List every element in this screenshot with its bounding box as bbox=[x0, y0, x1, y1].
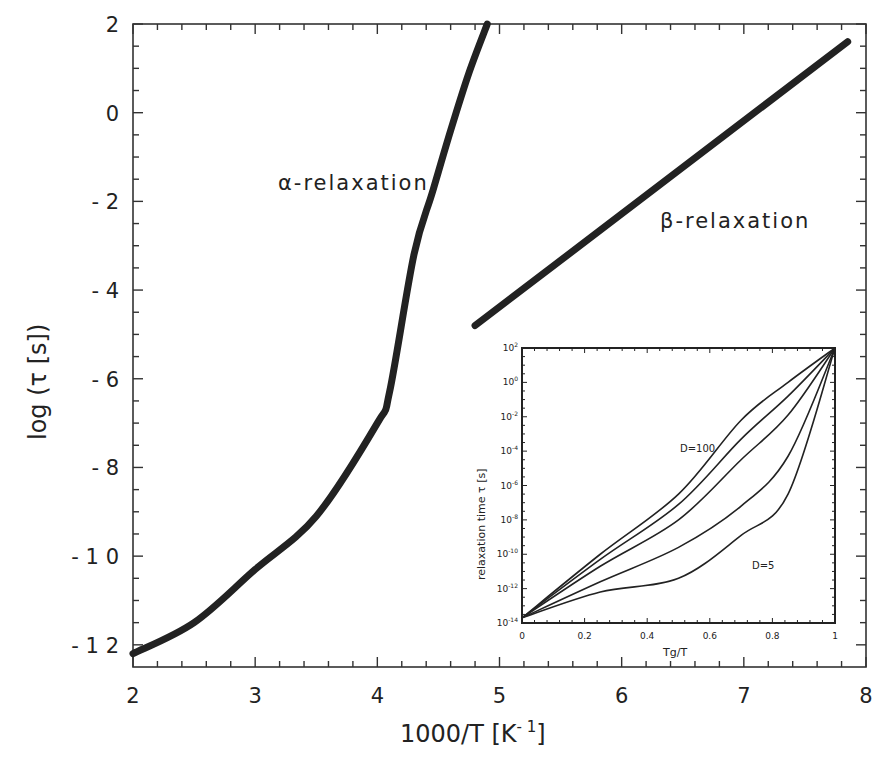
inset-y-tick-label: 10-14 bbox=[497, 616, 518, 628]
inset-d5-label: D=5 bbox=[752, 560, 774, 571]
alpha-relaxation-curve bbox=[133, 24, 487, 654]
x-tick-label: 7 bbox=[737, 684, 750, 708]
y-tick-label: - 8 bbox=[91, 456, 119, 480]
x-tick-label: 5 bbox=[493, 684, 506, 708]
inset-y-tick-label: 10-12 bbox=[497, 582, 518, 594]
y-tick-label: - 6 bbox=[91, 368, 119, 392]
inset-x-tick-label: 1 bbox=[832, 631, 838, 641]
y-tick-label: 2 bbox=[106, 13, 119, 37]
y-tick-label: - 1 2 bbox=[71, 634, 119, 658]
inset-y-axis-label: relaxation time τ [s] bbox=[475, 469, 488, 580]
inset-y-tick-label: 102 bbox=[503, 341, 518, 353]
inset-x-tick-label: 0.6 bbox=[703, 631, 718, 641]
inset-y-tick-label: 10-6 bbox=[501, 479, 519, 491]
inset-chart: 00.20.40.60.8110210010-210-410-610-810-1… bbox=[475, 341, 838, 659]
beta-relaxation-curve bbox=[475, 42, 848, 326]
y-tick-label: - 2 bbox=[91, 190, 119, 214]
x-tick-label: 2 bbox=[126, 684, 139, 708]
inset-x-tick-label: 0 bbox=[519, 631, 525, 641]
x-tick-label: 4 bbox=[371, 684, 384, 708]
inset-x-axis-label: Tg/T bbox=[662, 646, 687, 659]
y-tick-label: - 4 bbox=[91, 279, 119, 303]
alpha-relaxation-label: α-relaxation bbox=[278, 171, 429, 195]
x-axis-label: 1000/T [K- 1] bbox=[400, 718, 546, 748]
inset-y-tick-label: 10-4 bbox=[501, 444, 519, 456]
inset-x-tick-label: 0.2 bbox=[577, 631, 591, 641]
inset-y-tick-label: 10-2 bbox=[501, 410, 519, 422]
y-tick-label: 0 bbox=[106, 102, 119, 126]
chart: 234567820- 2- 4- 6- 8- 1 0- 1 2 α-relaxa… bbox=[0, 0, 888, 765]
inset-y-tick-label: 10-8 bbox=[501, 513, 519, 525]
inset-y-tick-label: 10-10 bbox=[497, 547, 518, 559]
y-axis-label: log (τ [s]) bbox=[24, 324, 52, 440]
x-tick-label: 8 bbox=[859, 684, 872, 708]
inset-y-tick-label: 100 bbox=[503, 375, 518, 387]
inset-d100-label: D=100 bbox=[680, 443, 715, 454]
beta-relaxation-label: β-relaxation bbox=[660, 209, 810, 233]
x-tick-label: 6 bbox=[615, 684, 628, 708]
y-tick-label: - 1 0 bbox=[71, 545, 119, 569]
inset-x-tick-label: 0.4 bbox=[640, 631, 655, 641]
inset-x-tick-label: 0.8 bbox=[765, 631, 780, 641]
x-tick-label: 3 bbox=[248, 684, 261, 708]
